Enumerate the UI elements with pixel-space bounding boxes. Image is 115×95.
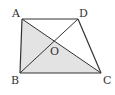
- vertex-label-c: C: [103, 74, 111, 87]
- vertex-label-b: B: [11, 74, 19, 87]
- intersection-label-o: O: [50, 45, 59, 58]
- vertex-label-a: A: [11, 7, 21, 20]
- vertex-label-d: D: [79, 7, 88, 20]
- trapezoid-diagram: A D B C O: [0, 0, 115, 95]
